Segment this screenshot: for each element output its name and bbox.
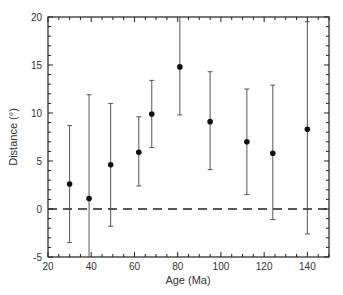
x-tick-label: 80: [172, 261, 184, 272]
x-tick-label: 20: [42, 261, 54, 272]
x-tick-label: 120: [256, 261, 273, 272]
data-point: [270, 151, 276, 157]
x-tick-label: 140: [299, 261, 316, 272]
y-tick-label: -5: [33, 252, 42, 263]
y-axis-label: Distance (°): [7, 108, 19, 166]
data-point: [244, 139, 250, 145]
data-point: [67, 181, 73, 187]
data-point: [136, 150, 142, 156]
y-tick-label: 10: [31, 108, 43, 119]
data-point: [305, 127, 311, 133]
y-tick-label: 5: [36, 156, 42, 167]
data-point: [108, 162, 114, 168]
y-tick-label: 15: [31, 60, 43, 71]
data-point: [207, 119, 213, 125]
data-point: [86, 196, 92, 202]
scatter-chart: 20406080100120140-505101520 Age (Ma) Dis…: [0, 0, 343, 295]
x-axis-label: Age (Ma): [165, 274, 210, 286]
y-tick-label: 20: [31, 12, 43, 23]
data-point: [149, 111, 155, 117]
plot-frame: [48, 17, 329, 257]
y-tick-label: 0: [36, 204, 42, 215]
x-tick-label: 60: [129, 261, 141, 272]
x-tick-label: 40: [86, 261, 98, 272]
x-tick-label: 100: [213, 261, 230, 272]
plot-area: 20406080100120140-505101520: [31, 12, 329, 273]
data-point: [177, 64, 183, 70]
